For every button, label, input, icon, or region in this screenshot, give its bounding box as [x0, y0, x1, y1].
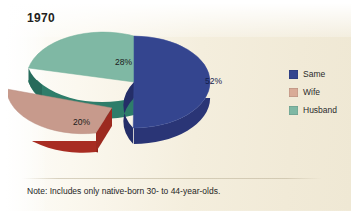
pie-slice-wife [8, 89, 112, 153]
chart-footnote: Note: Includes only native-born 30- to 4… [27, 186, 220, 196]
figure-panel: 1970 [0, 0, 358, 216]
pie-slice-same [123, 36, 210, 144]
legend-swatch-wife [289, 88, 298, 97]
legend-item-wife[interactable]: Wife [289, 83, 337, 101]
pie-label-husband: 28% [115, 57, 132, 67]
legend-label-wife: Wife [303, 87, 320, 97]
chart-legend: Same Wife Husband [289, 65, 337, 119]
note-divider [22, 178, 322, 179]
page-edge-bottom [0, 210, 358, 216]
pie-label-wife: 20% [73, 117, 90, 127]
legend-item-same[interactable]: Same [289, 65, 337, 83]
pie-chart-3d [8, 20, 288, 175]
legend-swatch-same [289, 70, 298, 79]
legend-item-husband[interactable]: Husband [289, 101, 337, 119]
legend-label-husband: Husband [303, 105, 337, 115]
legend-label-same: Same [303, 69, 325, 79]
pie-label-same: 52% [205, 76, 222, 86]
page-edge-right [351, 0, 358, 216]
legend-swatch-husband [289, 106, 298, 115]
